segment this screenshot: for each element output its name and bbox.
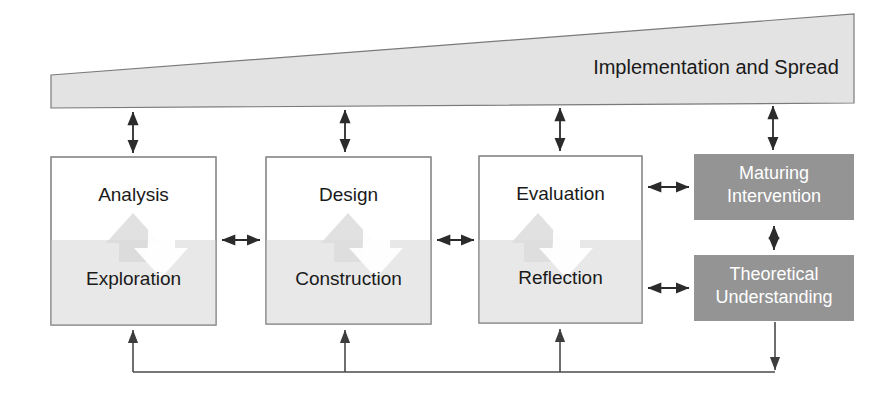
- stage-label-construction: Construction: [266, 268, 431, 289]
- stage-box-evaluation-reflection[interactable]: [479, 156, 642, 323]
- wedge-label: Implementation and Spread: [586, 56, 846, 78]
- stage-label-design: Design: [266, 184, 431, 205]
- stage-label-analysis: Analysis: [51, 184, 216, 205]
- connector-feedback-loop: [133, 322, 775, 372]
- stage-box-design-construction[interactable]: [266, 157, 431, 324]
- design-research-diagram: Implementation and Spread Analysis Explo…: [0, 0, 895, 397]
- stage-label-evaluation: Evaluation: [479, 183, 642, 204]
- stage-box-analysis-exploration[interactable]: [51, 157, 216, 325]
- output-label-theoretical-understanding-line1: Theoretical: [694, 264, 854, 284]
- output-label-maturing-intervention-line1: Maturing: [694, 163, 854, 183]
- stage-label-exploration: Exploration: [51, 268, 216, 289]
- output-label-theoretical-understanding-line2: Understanding: [694, 287, 854, 307]
- stage-label-reflection: Reflection: [479, 267, 642, 288]
- output-label-maturing-intervention-line2: Intervention: [694, 186, 854, 206]
